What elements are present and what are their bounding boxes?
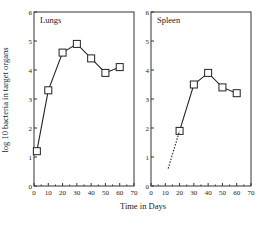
y-tick-label: 1 xyxy=(146,154,150,162)
x-tick-label: 50 xyxy=(102,189,110,197)
data-line xyxy=(37,44,120,151)
x-tick-label: 20 xyxy=(59,189,67,197)
x-tick-label: 60 xyxy=(116,189,124,197)
panel-title: Lungs xyxy=(40,15,61,25)
data-point-marker xyxy=(102,69,109,76)
data-point-marker xyxy=(73,40,80,47)
data-line xyxy=(168,131,179,169)
x-tick-label: 30 xyxy=(190,189,198,197)
y-tick-label: 4 xyxy=(29,67,33,75)
chart: 0102030405060700123456Lungs 010203040506… xyxy=(0,0,265,225)
data-point-marker xyxy=(33,148,40,155)
x-tick-label: 40 xyxy=(88,189,96,197)
data-point-marker xyxy=(190,81,197,88)
data-point-marker xyxy=(205,69,212,76)
plot-frame xyxy=(151,12,251,186)
x-tick-label: 0 xyxy=(149,189,153,197)
y-tick-label: 2 xyxy=(29,125,33,133)
y-tick-label: 2 xyxy=(146,125,150,133)
y-tick-label: 6 xyxy=(29,9,33,17)
data-point-marker xyxy=(88,55,95,62)
data-point-marker xyxy=(45,87,52,94)
data-point-marker xyxy=(116,64,123,71)
y-tick-label: 5 xyxy=(146,38,150,46)
y-tick-label: 0 xyxy=(29,183,33,191)
y-tick-label: 6 xyxy=(146,9,150,17)
x-axis-label: Time in Days xyxy=(120,201,166,211)
y-tick-label: 3 xyxy=(29,96,33,104)
plot-frame xyxy=(34,12,134,186)
y-tick-label: 3 xyxy=(146,96,150,104)
panel-title: Spleen xyxy=(157,15,181,25)
y-tick-label: 4 xyxy=(146,67,150,75)
data-point-marker xyxy=(233,90,240,97)
spleen-panel: 0102030405060700123456Spleen xyxy=(146,9,256,198)
x-tick-label: 40 xyxy=(205,189,213,197)
x-tick-label: 50 xyxy=(219,189,227,197)
data-point-marker xyxy=(59,49,66,56)
x-tick-label: 20 xyxy=(176,189,184,197)
y-tick-label: 1 xyxy=(29,154,33,162)
y-axis-label: log 10 bacteria in target organs xyxy=(0,47,10,152)
y-tick-label: 5 xyxy=(29,38,33,46)
x-tick-label: 30 xyxy=(73,189,81,197)
x-tick-label: 10 xyxy=(162,189,170,197)
x-tick-label: 70 xyxy=(248,189,256,197)
data-line xyxy=(180,73,237,131)
x-tick-label: 10 xyxy=(45,189,53,197)
x-tick-label: 70 xyxy=(131,189,139,197)
lungs-panel: 0102030405060700123456Lungs xyxy=(29,9,139,198)
y-tick-label: 0 xyxy=(146,183,150,191)
data-point-marker xyxy=(219,84,226,91)
x-tick-label: 60 xyxy=(233,189,241,197)
x-tick-label: 0 xyxy=(32,189,36,197)
